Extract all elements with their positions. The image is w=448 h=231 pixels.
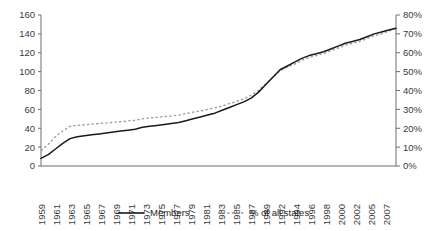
x-axis-tick-label: 2000 (336, 204, 347, 225)
legend-label: % of all states (250, 207, 309, 218)
line-chart: 020406080100120140160 0%10%20%30%40%50%6… (0, 0, 448, 231)
y-axis-right-tick-label: 70% (403, 28, 423, 39)
series-line-percent-of-all-states (41, 28, 396, 151)
y-axis-left-tick-label: 40 (24, 123, 35, 134)
y-axis-right-tick-label: 30% (403, 104, 423, 115)
x-axis-tick-label: 1967 (96, 204, 107, 225)
y-axis-left-tick-label: 80 (24, 85, 35, 96)
x-axis-tick-label: 2007 (381, 204, 392, 225)
x-axis-tick-label: 1959 (36, 204, 47, 225)
y-axis-left-tick-label: 120 (19, 47, 35, 58)
y-axis-right-tick-label: 0% (403, 160, 417, 171)
x-axis-tick-label: 1983 (216, 204, 227, 225)
x-axis-tick-label: 1969 (111, 204, 122, 225)
x-axis-tick-label: 2002 (351, 204, 362, 225)
y-axis-left-tick-label: 100 (19, 66, 35, 77)
y-axis-right-tick-label: 10% (403, 142, 423, 153)
y-axis-right-tick-label: 60% (403, 47, 423, 58)
x-axis: 1959196119631965196719691971197319751977… (36, 166, 396, 225)
y-axis-right-tick-label: 80% (403, 9, 423, 20)
y-axis-left-tick-label: 60 (24, 104, 35, 115)
x-axis-tick-label: 1961 (51, 204, 62, 225)
y-axis-left-tick-label: 20 (24, 142, 35, 153)
y-axis-right-tick-label: 40% (403, 85, 423, 96)
x-axis-tick-label: 1971 (126, 204, 137, 225)
y-axis-left: 020406080100120140160 (19, 9, 41, 171)
y-axis-right-tick-label: 20% (403, 123, 423, 134)
chart-canvas: 020406080100120140160 0%10%20%30%40%50%6… (0, 0, 448, 231)
y-axis-left-tick-label: 160 (19, 9, 35, 20)
y-axis-right: 0%10%20%30%40%50%60%70%80% (396, 9, 423, 171)
y-axis-left-tick-label: 140 (19, 28, 35, 39)
y-axis-right-tick-label: 50% (403, 66, 423, 77)
y-axis-left-tick-label: 0 (30, 160, 35, 171)
x-axis-tick-label: 1965 (81, 204, 92, 225)
x-axis-tick-label: 2005 (366, 204, 377, 225)
x-axis-tick-label: 1981 (201, 204, 212, 225)
x-axis-tick-label: 1985 (231, 204, 242, 225)
x-axis-tick-label: 1998 (321, 204, 332, 225)
x-axis-tick-label: 1963 (66, 204, 77, 225)
series-line-members (41, 28, 396, 158)
legend-label: Members (150, 207, 190, 218)
